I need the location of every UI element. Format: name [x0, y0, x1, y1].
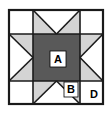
label-a: A [50, 51, 66, 67]
quilt-block-figure: A B D [0, 0, 112, 113]
label-a-text: A [54, 53, 62, 65]
label-b: B [64, 82, 78, 97]
label-b-text: B [67, 83, 75, 95]
label-d-text: D [90, 88, 98, 100]
corner-square-top-right [80, 10, 103, 34]
corner-square-bottom-left [9, 81, 33, 104]
quilt-block-diagram: A B D [0, 0, 112, 113]
corner-square-top-left [9, 10, 33, 34]
